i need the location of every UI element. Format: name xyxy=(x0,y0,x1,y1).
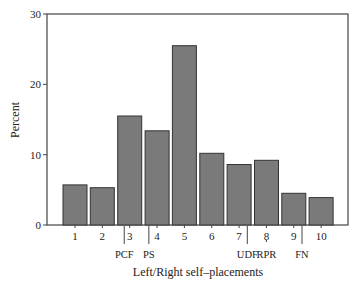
x-tick-label: 4 xyxy=(154,230,160,242)
y-axis: 0102030 xyxy=(30,8,47,231)
party-label-ps: PS xyxy=(143,249,155,260)
bar-3 xyxy=(118,116,142,225)
party-label-fn: FN xyxy=(295,249,309,260)
y-axis-label: Percent xyxy=(8,101,22,138)
y-tick-label: 10 xyxy=(30,149,42,161)
party-label-udf: UDF xyxy=(237,249,258,260)
party-label-rpr: RPR xyxy=(257,249,277,260)
bar-2 xyxy=(90,188,114,225)
bar-1 xyxy=(63,185,87,225)
x-axis-label: Left/Right self–placements xyxy=(133,265,264,279)
bar-10 xyxy=(309,198,333,225)
x-axis: 12345678910 xyxy=(72,225,327,242)
x-tick-label: 7 xyxy=(236,230,242,242)
bar-chart: 0102030 12345678910 PCFPSUDFRPRFN Percen… xyxy=(0,0,360,286)
bar-5 xyxy=(172,46,196,225)
party-label-pcf: PCF xyxy=(115,249,134,260)
x-tick-label: 10 xyxy=(316,230,328,242)
y-tick-label: 20 xyxy=(30,78,42,90)
x-tick-label: 9 xyxy=(291,230,297,242)
bar-6 xyxy=(200,153,224,225)
x-tick-label: 5 xyxy=(182,230,188,242)
bar-8 xyxy=(255,160,279,225)
bars xyxy=(63,46,333,225)
bar-4 xyxy=(145,131,169,225)
x-tick-label: 2 xyxy=(100,230,106,242)
bar-7 xyxy=(227,165,251,226)
bar-9 xyxy=(282,193,306,225)
y-tick-label: 0 xyxy=(36,219,42,231)
y-tick-label: 30 xyxy=(30,8,42,20)
x-tick-label: 1 xyxy=(72,230,78,242)
x-tick-label: 6 xyxy=(209,230,215,242)
x-tick-label: 3 xyxy=(127,230,133,242)
